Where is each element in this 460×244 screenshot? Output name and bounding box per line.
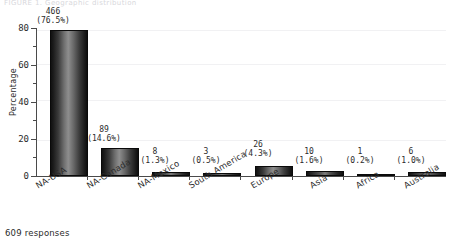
y-axis-labels: 80 60 40 20 0: [0, 0, 29, 244]
x-label-asia: Asia: [308, 172, 329, 190]
value-count: 3: [177, 147, 235, 156]
value-percent: (14.6%): [75, 134, 133, 143]
value-label-africa: 1 (0.2%): [331, 147, 389, 165]
bar-chart: Percentage 80 60 40 20 0 466: [0, 0, 460, 244]
value-label-na-usa: 466 (76.5%): [24, 7, 82, 25]
value-count: 8: [126, 147, 184, 156]
value-count: 26: [229, 140, 287, 149]
value-count: 1: [331, 147, 389, 156]
y-tick-label-0: 0: [5, 172, 29, 181]
value-label-asia: 10 (1.6%): [280, 147, 338, 165]
y-tick-label-20: 20: [5, 135, 29, 144]
value-count: 89: [75, 125, 133, 134]
bar-na-usa: [50, 30, 88, 176]
value-label-na-canada: 89 (14.6%): [75, 125, 133, 143]
value-percent: (76.5%): [24, 16, 82, 25]
value-percent: (1.6%): [280, 156, 338, 165]
value-label-australia: 6 (1.0%): [382, 147, 440, 165]
y-tick-label-40: 40: [5, 98, 29, 107]
x-axis-category-labels: NA-USA NA-Canada NA-Mexico South America…: [36, 176, 446, 236]
value-count: 6: [382, 147, 440, 156]
value-percent: (0.2%): [331, 156, 389, 165]
value-count: 10: [280, 147, 338, 156]
y-tick-label-60: 60: [5, 61, 29, 70]
y-tick-label-80: 80: [5, 24, 29, 33]
value-count: 466: [24, 7, 82, 16]
responses-footnote: 609 responses: [5, 228, 70, 238]
